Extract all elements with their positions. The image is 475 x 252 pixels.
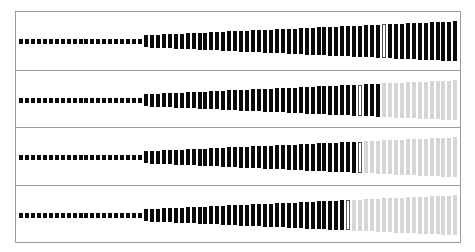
level-bar <box>352 85 356 116</box>
level-bar <box>281 203 285 227</box>
level-bar <box>364 199 368 231</box>
level-bar <box>275 145 279 169</box>
level-bar <box>108 39 112 44</box>
level-bar <box>61 39 65 44</box>
level-bar <box>239 205 243 226</box>
level-bar <box>328 143 332 172</box>
level-bar <box>287 29 291 54</box>
level-bar <box>221 206 225 225</box>
volume-slider-4[interactable] <box>16 185 460 243</box>
level-bar <box>293 203 297 228</box>
level-bar <box>275 29 279 53</box>
level-bar <box>352 26 356 57</box>
level-bar <box>150 94 154 107</box>
level-bar <box>334 86 338 115</box>
level-bar <box>150 35 154 48</box>
level-bar <box>263 146 267 169</box>
level-bar <box>108 213 112 218</box>
slider-thumb[interactable] <box>346 200 350 230</box>
level-bar <box>67 39 71 44</box>
level-bar <box>162 93 166 107</box>
level-bar <box>73 155 77 160</box>
slider-thumb[interactable] <box>358 142 362 173</box>
level-bar <box>263 204 267 227</box>
volume-slider-3[interactable] <box>16 127 460 185</box>
level-bar <box>203 33 207 50</box>
level-bar <box>108 98 112 103</box>
level-bar <box>436 22 440 60</box>
level-bar <box>138 98 142 103</box>
level-bar <box>174 208 178 223</box>
level-bar <box>156 151 160 164</box>
level-bar <box>382 83 386 117</box>
level-bar <box>281 29 285 53</box>
level-bar <box>245 205 249 226</box>
level-bar <box>114 155 118 160</box>
level-bar <box>19 213 23 218</box>
level-bar <box>31 213 35 218</box>
level-bar <box>90 98 94 103</box>
level-bar <box>418 139 422 176</box>
level-bar <box>424 197 428 234</box>
level-bar <box>102 213 106 218</box>
level-bar <box>168 150 172 164</box>
level-bar <box>400 83 404 118</box>
level-bar <box>269 89 273 112</box>
level-bar <box>340 200 344 230</box>
level-bar <box>221 148 225 167</box>
level-bar <box>334 27 338 56</box>
level-bar <box>215 148 219 166</box>
level-bar <box>322 143 326 171</box>
level-bar <box>257 30 261 52</box>
level-bar <box>49 39 53 44</box>
level-bar <box>168 93 172 107</box>
level-bar <box>209 91 213 109</box>
level-bar <box>198 207 202 224</box>
level-bar <box>245 31 249 52</box>
level-bar <box>90 213 94 218</box>
level-bar <box>293 145 297 170</box>
level-bar <box>203 207 207 224</box>
level-bar <box>430 22 434 60</box>
level-bar <box>287 203 291 228</box>
level-bar <box>180 150 184 165</box>
level-bar <box>269 146 273 169</box>
level-bar <box>340 85 344 115</box>
level-bar <box>215 32 219 50</box>
level-bar <box>305 87 309 114</box>
level-bar <box>73 213 77 218</box>
level-bar <box>447 81 451 120</box>
level-bar <box>287 145 291 170</box>
level-bar <box>49 213 53 218</box>
volume-slider-2[interactable] <box>16 70 460 127</box>
level-bar <box>61 155 65 160</box>
level-bar <box>352 142 356 173</box>
level-bar <box>376 141 380 174</box>
level-bar <box>79 98 83 103</box>
level-bar <box>311 144 315 171</box>
level-bar <box>328 27 332 56</box>
level-bar <box>49 98 53 103</box>
level-bar <box>257 146 261 168</box>
level-bar <box>388 24 392 58</box>
level-bar <box>156 209 160 222</box>
level-bar <box>346 26 350 56</box>
level-bar <box>90 155 94 160</box>
level-bar <box>209 148 213 166</box>
level-bar <box>180 93 184 108</box>
level-bar <box>126 213 130 218</box>
slider-thumb[interactable] <box>358 85 362 116</box>
level-bar <box>269 30 273 53</box>
level-bar <box>221 32 225 51</box>
level-bar <box>55 213 59 218</box>
level-bar <box>126 155 130 160</box>
slider-thumb[interactable] <box>382 24 386 58</box>
volume-slider-1[interactable] <box>16 12 460 70</box>
level-bar <box>96 98 100 103</box>
level-bar <box>174 93 178 108</box>
level-bar <box>132 155 136 160</box>
level-bar <box>406 23 410 59</box>
level-bar <box>31 155 35 160</box>
level-bar <box>108 155 112 160</box>
level-bar <box>49 155 53 160</box>
